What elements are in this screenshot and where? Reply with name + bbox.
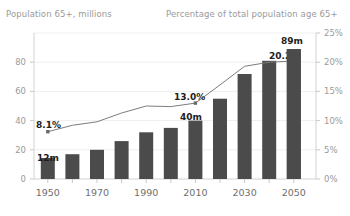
annotation-12m: 12m (37, 153, 59, 163)
x-label-2010: 2010 (183, 187, 207, 198)
right-tick-label-20pct: 20% (324, 57, 343, 67)
left-axis-ticks: 0 20 40 60 80 (15, 57, 34, 184)
right-tick-label-0pct: 0% (324, 174, 338, 184)
bar-series (41, 49, 301, 179)
x-label-1970: 1970 (85, 187, 109, 198)
bar-2010 (188, 121, 202, 179)
left-tick-label-40: 40 (15, 116, 26, 126)
right-tick-label-10pct: 10% (324, 116, 343, 126)
annotation-8-1pct: 8.1% (36, 120, 61, 130)
annotation-13pct: 13.0% (174, 92, 205, 102)
bar-1980 (115, 141, 129, 179)
left-tick-label-80: 80 (15, 57, 26, 67)
bar-2020 (213, 99, 227, 179)
x-label-2030: 2030 (233, 187, 257, 198)
x-label-1950: 1950 (36, 187, 60, 198)
bar-1960 (65, 154, 79, 179)
left-tick-label-20: 20 (15, 145, 26, 155)
percentage-line-markers (46, 59, 295, 133)
bar-1990 (139, 132, 153, 179)
left-tick-label-60: 60 (15, 86, 26, 96)
right-tick-label-15pct: 15% (324, 86, 343, 96)
annotation-40m: 40m (180, 112, 202, 122)
bar-2040 (262, 61, 276, 179)
line-marker-1950 (46, 130, 49, 133)
bar-1970 (90, 150, 104, 179)
right-axis-ticks: 0% 5% 10% 15% 20% 25% (316, 28, 343, 184)
chart-container: Population 65+, millions Percentage of t… (0, 0, 350, 216)
x-label-1990: 1990 (134, 187, 158, 198)
right-tick-label-5pct: 5% (324, 145, 338, 155)
bar-2030 (238, 74, 252, 179)
bar-2050-overlap (287, 49, 301, 179)
annotation-89m: 89m (281, 36, 303, 46)
left-tick-label-0: 0 (21, 174, 26, 184)
x-axis-labels: 1950 1970 1990 2010 2030 2050 (36, 187, 306, 198)
x-axis-ticks (48, 179, 294, 183)
right-tick-label-25pct: 25% (324, 28, 343, 38)
bar-2000 (164, 128, 178, 179)
x-label-2050: 2050 (282, 187, 306, 198)
chart-svg: 0 20 40 60 80 0% 5% 10% 15% 20% 25% (0, 0, 350, 216)
